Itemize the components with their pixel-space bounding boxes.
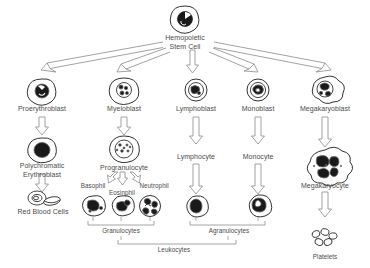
arrow-stem-to-megakaryoblast: [214, 42, 331, 72]
label-polychromatic-erythroblast: Polychromatic Erythroblast: [2, 162, 82, 179]
cell-progranulocyte: [110, 136, 140, 163]
label-leukocytes: Leukocytes: [144, 246, 204, 254]
arrow-lymphocyte-down: [190, 164, 203, 194]
label-lymphocyte: Lymphocyte: [162, 153, 230, 162]
cell-polychromatic-erythroblast: [28, 138, 57, 163]
label-megakaryoblast: Megakaryoblast: [283, 105, 367, 114]
cell-eosinphil: [112, 196, 134, 216]
cell-neutrophil: [140, 196, 161, 217]
cell-proerythroblast: [27, 79, 56, 105]
label-lymphoblast: Lymphoblast: [161, 105, 231, 114]
arrow-stem-to-lymphoblast: [187, 50, 199, 73]
arrow-monoblast-down: [252, 117, 265, 144]
label-platelets: Platelets: [292, 253, 358, 261]
label-monocyte: Monocyte: [226, 153, 290, 162]
cell-basophil: [83, 196, 106, 216]
arrow-progranulocyte-to-eosinphil: [118, 172, 128, 185]
bracket-ticks-agranulocytes: [196, 217, 258, 221]
label-eosinphil: Eosinphil: [100, 189, 144, 197]
bracket-granulocytes: [88, 221, 154, 225]
bracket-leukocytes: [118, 240, 236, 244]
bracket-agranulocytes: [190, 221, 265, 225]
arrow-megakaryocyte-down: [319, 192, 332, 217]
cell-monocyte-terminal: [249, 195, 272, 217]
cell-hemopoietic-stem-cell: [170, 6, 199, 33]
arrow-lymphoblast-down: [190, 117, 203, 144]
label-megakaryocyte: Megakaryocyte: [285, 182, 365, 191]
cell-megakaryocyte: [307, 147, 352, 186]
cell-red-blood-cells: [28, 191, 61, 207]
arrow-proerythroblast-down: [36, 117, 49, 135]
bracket-ticks-leukocytes: [121, 236, 228, 240]
cell-platelets: [311, 228, 337, 247]
label-myeloblast: Myeloblast: [89, 105, 159, 114]
label-neutrophil: Neutrophil: [130, 182, 178, 190]
label-red-blood-cells: Red Blood Cells: [2, 208, 84, 217]
label-agranulocytes: Agranulocytes: [196, 227, 262, 235]
cell-myeloblast: [109, 78, 139, 105]
label-hemopoietic-stem-cell: Hemopoietic Stem Cell: [140, 34, 230, 51]
label-granulocytes: Granulocytes: [90, 227, 152, 235]
hematopoiesis-diagram: Hemopoietic Stem Cell Proerythroblast My…: [0, 0, 370, 268]
bracket-ticks-granulocytes: [93, 217, 150, 221]
cell-megakaryoblast: [312, 76, 344, 103]
arrow-megakaryoblast-down: [319, 117, 332, 147]
label-proerythroblast: Proerythroblast: [2, 105, 82, 114]
label-progranulocyte: Progranulocyte: [87, 164, 161, 173]
cell-lymphoblast: [185, 79, 207, 101]
arrow-myeloblast-down: [118, 117, 131, 135]
cell-monoblast: [247, 79, 269, 101]
cell-lymphocyte-terminal: [187, 196, 209, 217]
arrow-monocyte-down: [252, 164, 265, 194]
label-monoblast: Monoblast: [224, 105, 292, 114]
arrow-stem-to-myeloblast: [117, 48, 170, 72]
